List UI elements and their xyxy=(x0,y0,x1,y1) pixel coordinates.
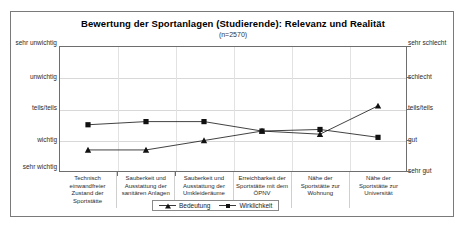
square-marker-icon xyxy=(226,204,230,208)
y-tick-left-4: wichtig xyxy=(11,136,57,144)
tickmark-right-3 xyxy=(407,109,411,110)
legend-item-wirklichkeit[interactable]: Wirklichkeit xyxy=(219,202,272,209)
legend-label-wirklichkeit: Wirklichkeit xyxy=(239,202,272,209)
series-line-bedeutung xyxy=(88,106,378,150)
y-tick-right-3: teils/teils xyxy=(408,104,456,112)
y-tick-left-1: sehr unwichtig xyxy=(11,39,57,47)
data-series-layer xyxy=(59,46,407,172)
chart-title: Bewertung der Sportanlagen (Studierende)… xyxy=(11,18,455,29)
y-tick-right-1: sehr schlecht xyxy=(408,39,456,47)
y-tick-right-4: gut xyxy=(408,136,456,144)
chart-legend: Bedeutung Wirklichkeit xyxy=(152,200,279,211)
legend-item-bedeutung[interactable]: Bedeutung xyxy=(159,202,210,209)
y-tick-left-2: unwichtig xyxy=(11,73,57,81)
y-tick-left-5: sehr wichtig xyxy=(11,163,57,171)
legend-line-bedeutung xyxy=(159,205,176,206)
chart-frame: Bewertung der Sportanlagen (Studierende)… xyxy=(10,11,454,217)
square-marker-icon xyxy=(143,119,148,124)
y-tick-left-3: teils/teils xyxy=(11,104,57,112)
cropped-header-text xyxy=(0,0,464,9)
legend-label-bedeutung: Bedeutung xyxy=(179,202,210,209)
category-label-1: Technisch einwandfreier Zustand der Spor… xyxy=(59,172,117,208)
tickmark-right-1 xyxy=(407,46,411,47)
y-tick-right-5: sehr gut xyxy=(408,167,456,175)
square-marker-icon xyxy=(201,119,206,124)
square-marker-icon xyxy=(85,122,90,127)
triangle-marker-icon xyxy=(375,103,381,109)
square-marker-icon xyxy=(317,127,322,132)
square-marker-icon xyxy=(375,135,380,140)
tickmark-right-4 xyxy=(407,140,411,141)
tickmark-right-5 xyxy=(407,171,411,172)
chart-subtitle: (n=2570) xyxy=(11,31,455,38)
series-line-wirklichkeit xyxy=(88,122,378,138)
triangle-marker-icon xyxy=(165,203,171,208)
legend-line-wirklichkeit xyxy=(219,205,236,206)
square-marker-icon xyxy=(259,128,264,133)
category-label-5: Nähe der Sportstätte zur Wohnung xyxy=(292,172,350,208)
y-tick-right-2: schlecht xyxy=(408,73,456,81)
category-label-6: Nähe der Sportstätte zur Universität xyxy=(350,172,407,208)
tickmark-right-2 xyxy=(407,77,411,78)
chart-page: Bewertung der Sportanlagen (Studierende)… xyxy=(0,0,464,230)
